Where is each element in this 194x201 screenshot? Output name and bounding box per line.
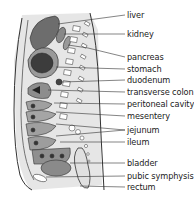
stomach — [31, 53, 53, 73]
label-peritoneal-cavity: peritoneal cavity — [127, 99, 194, 109]
label-pubic-symphysis: pubic symphysis — [127, 171, 194, 181]
label-ileum: ileum — [127, 137, 149, 147]
label-pancreas: pancreas — [127, 52, 164, 62]
label-transverse-colon: transverse colon — [127, 87, 194, 97]
label-mesentery: mesentery — [127, 111, 170, 121]
label-duodenum: duodenum — [127, 75, 170, 85]
label-stomach: stomach — [127, 64, 161, 74]
label-liver: liver — [127, 10, 144, 20]
label-rectum: rectum — [127, 182, 156, 192]
label-jejunum: jejunum — [127, 125, 159, 135]
duodenum — [56, 79, 62, 85]
bladder — [41, 160, 71, 176]
label-kidney: kidney — [127, 29, 154, 39]
label-bladder: bladder — [127, 158, 158, 168]
